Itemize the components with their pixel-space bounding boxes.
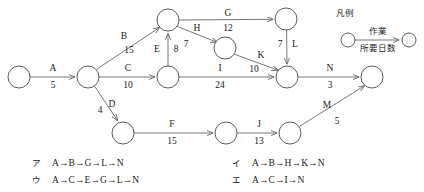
legend: 凡例 作業 所要日数 [336, 8, 416, 53]
edge-label-B-name: B [121, 31, 127, 41]
node-after-h [214, 37, 236, 59]
choice-key-c[interactable]: ウ [32, 175, 41, 185]
edge-label-M-days: 5 [335, 116, 340, 126]
edge-label-E-days: 8 [174, 44, 179, 54]
node-start [8, 66, 30, 88]
edge-label-J-name: J [257, 119, 261, 129]
legend-node-end [402, 33, 416, 47]
node-after-b [157, 9, 179, 31]
arrow-diagram-canvas: A 5 B 15 C 10 D 4 E 8 G 12 H 7 I 24 K 10… [0, 0, 424, 192]
edge-label-L-name: L [292, 39, 298, 49]
node-after-a [77, 66, 99, 88]
arrow-diagram-page: A 5 B 15 C 10 D 4 E 8 G 12 H 7 I 24 K 10… [0, 0, 424, 192]
edge-label-I-name: I [218, 63, 221, 73]
edge-label-A-days: 5 [51, 80, 56, 90]
edge-label-F-name: F [169, 119, 174, 129]
edge-G [179, 19, 273, 20]
node-after-c [157, 66, 179, 88]
choice-text-d[interactable]: A→C→I→N [252, 175, 304, 185]
node-after-j [279, 122, 301, 144]
edge-label-G-days: 12 [223, 23, 233, 33]
edge-label-L-days: 7 [278, 39, 283, 49]
choice-text-c[interactable]: A→C→E→G→L→N [52, 175, 139, 185]
edge-label-I-days: 24 [215, 80, 225, 90]
edge-M [300, 86, 365, 127]
node-after-f [215, 122, 237, 144]
edge-label-C-days: 10 [123, 80, 133, 90]
answer-choices: ア A→B→G→L→N イ A→B→H→K→N ウ A→C→E→G→L→N エ … [32, 158, 325, 185]
edge-label-N-name: N [327, 63, 334, 73]
edge-label-B-days: 15 [124, 45, 134, 55]
legend-title: 凡例 [336, 8, 354, 18]
legend-node-start [341, 33, 355, 47]
edge-label-H-days: 7 [184, 39, 189, 49]
legend-duration-label: 所要日数 [360, 43, 396, 53]
node-merge [276, 66, 298, 88]
edge-label-M-name: M [323, 100, 332, 110]
edge-label-A-name: A [50, 63, 57, 73]
node-after-g [275, 8, 297, 30]
edge-label-K-name: K [258, 50, 265, 60]
edge-label-K-days: 10 [249, 64, 259, 74]
edge-label-H-name: H [194, 23, 201, 33]
choice-text-b[interactable]: A→B→H→K→N [252, 158, 325, 168]
edge-label-D-name: D [109, 99, 116, 109]
edge-label-C-name: C [125, 63, 131, 73]
edge-label-E-name: E [154, 44, 160, 54]
node-after-d [112, 122, 134, 144]
choice-key-a[interactable]: ア [32, 158, 41, 168]
edge-label-J-days: 13 [254, 136, 264, 146]
choice-key-b[interactable]: イ [232, 158, 241, 168]
edge-label-G-name: G [225, 8, 232, 18]
choice-key-d[interactable]: エ [232, 175, 241, 185]
edge-label-D-days: 4 [98, 105, 103, 115]
node-end [361, 66, 383, 88]
edge-label-F-days: 15 [167, 136, 177, 146]
edge-label-N-days: 3 [328, 80, 333, 90]
choice-text-a[interactable]: A→B→G→L→N [52, 158, 124, 168]
legend-activity-label: 作業 [369, 26, 387, 36]
